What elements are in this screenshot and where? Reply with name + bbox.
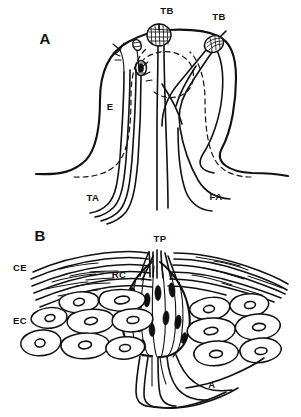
label-epithelium: E — [107, 101, 114, 112]
taste-bud-left-nerve-fiber — [157, 46, 168, 210]
epithelial-cell — [230, 294, 269, 316]
label-free-nerve-afferent: FA — [210, 191, 223, 202]
cornified-epithelium-right — [168, 253, 288, 302]
taste-bud-right-pore — [221, 31, 226, 36]
merkel-cell — [136, 61, 147, 76]
label-receptor-cells: RC — [112, 269, 127, 280]
label-terminal-papilla: TP — [154, 233, 167, 244]
epithelial-cell — [187, 318, 235, 344]
free-nerve-afferent-fibers — [162, 50, 230, 199]
panel-a-letter: A — [40, 30, 51, 47]
epithelial-cell — [112, 309, 153, 332]
epithelial-cell — [61, 333, 109, 359]
epithelium-outline-left — [36, 30, 168, 174]
histology-figure-svg: A TB TB E TA FA — [0, 0, 301, 417]
label-epithelial-cells: EC — [13, 315, 27, 326]
label-cornified-epithelium: CE — [13, 262, 27, 273]
panel-a-group: A TB TB E TA FA — [36, 5, 288, 224]
epithelial-cell — [194, 341, 238, 366]
epithelial-cells-left — [21, 290, 153, 360]
epithelial-cell — [31, 308, 67, 329]
panel-b-group: B TP CE RC EC A — [13, 227, 288, 408]
epithelial-cell — [21, 330, 61, 356]
epithelial-cell — [106, 337, 145, 359]
taste-bud-left — [147, 24, 171, 46]
epithelial-cell — [235, 314, 280, 340]
epithelial-cell — [190, 297, 230, 319]
epithelial-cells-right — [187, 294, 281, 366]
figure-root: A TB TB E TA FA — [0, 0, 301, 417]
epithelial-cell — [240, 338, 281, 363]
epithelial-cell — [67, 309, 114, 333]
label-tb-right: TB — [212, 11, 225, 22]
label-tb-left: TB — [160, 5, 173, 16]
label-axon: A — [208, 379, 215, 390]
label-taste-afferent: TA — [87, 192, 100, 203]
panel-b-letter: B — [35, 227, 46, 244]
epithelial-cell — [99, 290, 145, 312]
